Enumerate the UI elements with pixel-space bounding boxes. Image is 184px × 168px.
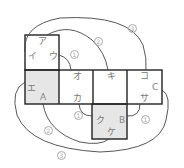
edge-marker-3: 3 [57, 151, 66, 160]
label-u: ウ [49, 52, 58, 61]
label-B: B [119, 116, 125, 125]
edge-marker-3: 3 [128, 24, 137, 33]
label-i: イ [28, 52, 37, 61]
label-C: C [152, 83, 158, 92]
label-ko: コ [140, 72, 149, 81]
edge-marker-2: 2 [44, 126, 53, 135]
label-ke: ケ [107, 128, 116, 137]
edge-marker-2: 2 [94, 37, 103, 46]
label-ki: キ [107, 72, 116, 81]
edge-marker-1: 1 [74, 111, 83, 120]
label-a: ア [38, 37, 47, 46]
edge-marker-1: 1 [70, 50, 79, 59]
edge-marker-1: 1 [141, 115, 150, 124]
label-ka: カ [73, 94, 82, 103]
label-ku: ク [96, 116, 105, 125]
label-e: エ [27, 84, 36, 93]
arc-1-top [59, 55, 71, 70]
label-A: A [40, 93, 46, 102]
label-sa: サ [140, 94, 149, 103]
label-o: オ [73, 72, 82, 81]
arc-1-bottom-right [127, 104, 140, 116]
cube-net-diagram: ア イ ウ エ A オ カ キ コ C サ ク B ケ 1 2 3 1 1 2 … [0, 0, 184, 168]
